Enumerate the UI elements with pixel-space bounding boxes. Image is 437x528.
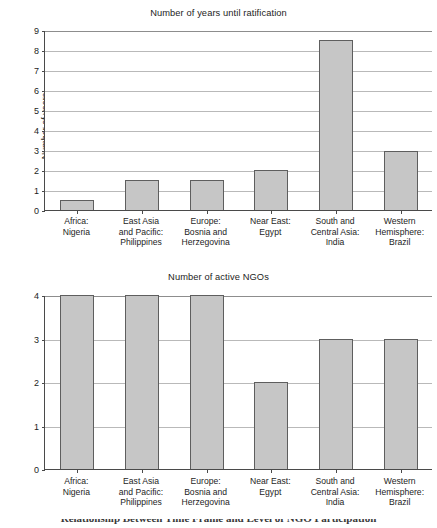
x-axis-category-label: Africa: Nigeria (63, 476, 90, 497)
figure-caption-clipped: Relationship Between Time Frame and Leve… (0, 519, 437, 528)
y-axis-tick (42, 91, 46, 92)
chart-title-top: Number of years until ratification (0, 8, 437, 18)
bar (190, 180, 224, 210)
gridline (45, 71, 432, 72)
x-axis-tick (207, 469, 208, 473)
gridline (45, 91, 432, 92)
y-axis-tick-label: 1 (34, 186, 39, 196)
bar (254, 382, 288, 469)
chart-title-bottom: Number of active NGOs (0, 272, 437, 282)
y-axis-tick (42, 427, 46, 428)
y-axis-tick (42, 51, 46, 52)
x-axis-tick (401, 210, 402, 214)
y-axis-tick-label: 2 (34, 166, 39, 176)
x-axis-category-label: Europe: Bosnia and Herzegovina (182, 216, 230, 248)
x-axis-tick (336, 210, 337, 214)
gridline (45, 111, 432, 112)
x-axis-tick (207, 210, 208, 214)
y-axis-tick (42, 191, 46, 192)
bar (125, 180, 159, 210)
y-axis-tick (42, 71, 46, 72)
chart-years-until-ratification: Number of years until ratification Numbe… (0, 8, 437, 264)
y-axis-tick-label: 4 (34, 291, 39, 301)
bar (60, 200, 94, 210)
y-axis-tick-label: 9 (34, 26, 39, 36)
x-axis-category-label: Africa: Nigeria (63, 216, 90, 237)
gridline (45, 340, 432, 341)
x-axis-category-label: Near East: Egypt (250, 476, 291, 497)
y-axis-tick (42, 151, 46, 152)
gridline (45, 171, 432, 172)
gridline (45, 51, 432, 52)
x-axis-tick (142, 469, 143, 473)
x-axis-category-label: Western Hemisphere: Brazil (375, 216, 424, 248)
y-axis-tick (42, 470, 46, 471)
y-axis-tick (42, 340, 46, 341)
y-axis-tick-label: 8 (34, 46, 39, 56)
gridline (45, 383, 432, 384)
x-axis-category-label: South and Central Asia: India (311, 476, 360, 508)
x-axis-tick (271, 469, 272, 473)
bar (125, 295, 159, 469)
y-axis-tick-label: 3 (34, 146, 39, 156)
bar (319, 40, 353, 210)
y-axis-tick (42, 211, 46, 212)
x-axis-tick (336, 469, 337, 473)
y-axis-tick-label: 3 (34, 335, 39, 345)
y-axis-tick-label: 0 (34, 206, 39, 216)
plot-area-top: 0123456789 (44, 31, 432, 211)
x-axis-category-label: South and Central Asia: India (311, 216, 360, 248)
x-axis-tick (77, 210, 78, 214)
gridline (45, 296, 432, 297)
gridline (45, 151, 432, 152)
y-axis-tick-label: 7 (34, 66, 39, 76)
gridline (45, 427, 432, 428)
y-axis-tick (42, 171, 46, 172)
y-axis-tick-label: 1 (34, 422, 39, 432)
x-axis-tick (401, 469, 402, 473)
x-axis-tick (77, 469, 78, 473)
bar (384, 151, 418, 210)
chart-active-ngos: Number of active NGOs Number of active N… (0, 272, 437, 522)
y-axis-tick (42, 131, 46, 132)
bar (60, 295, 94, 469)
y-axis-tick (42, 111, 46, 112)
figure-two-bar-charts: Number of years until ratification Numbe… (0, 0, 437, 528)
y-axis-tick-label: 2 (34, 378, 39, 388)
plot-area-bottom: 01234 (44, 296, 432, 470)
y-axis-tick-label: 5 (34, 106, 39, 116)
y-axis-tick-label: 4 (34, 126, 39, 136)
x-axis-tick (142, 210, 143, 214)
x-axis-category-label: Europe: Bosnia and Herzegovina (182, 476, 230, 508)
y-axis-tick-label: 6 (34, 86, 39, 96)
y-axis-tick (42, 296, 46, 297)
x-axis-tick (271, 210, 272, 214)
gridline (45, 31, 432, 32)
x-axis-category-label: Near East: Egypt (250, 216, 291, 237)
bar (384, 339, 418, 470)
gridline (45, 131, 432, 132)
figure-caption-text: Relationship Between Time Frame and Leve… (0, 519, 437, 524)
x-axis-category-label: Western Hemisphere: Brazil (375, 476, 424, 508)
bar (319, 339, 353, 470)
y-axis-tick (42, 31, 46, 32)
x-axis-category-label: East Asia and Pacific: Philippines (119, 476, 163, 508)
gridline (45, 191, 432, 192)
bar (190, 295, 224, 469)
bar (254, 170, 288, 210)
y-axis-tick-label: 0 (34, 465, 39, 475)
x-axis-category-label: East Asia and Pacific: Philippines (119, 216, 163, 248)
y-axis-tick (42, 383, 46, 384)
